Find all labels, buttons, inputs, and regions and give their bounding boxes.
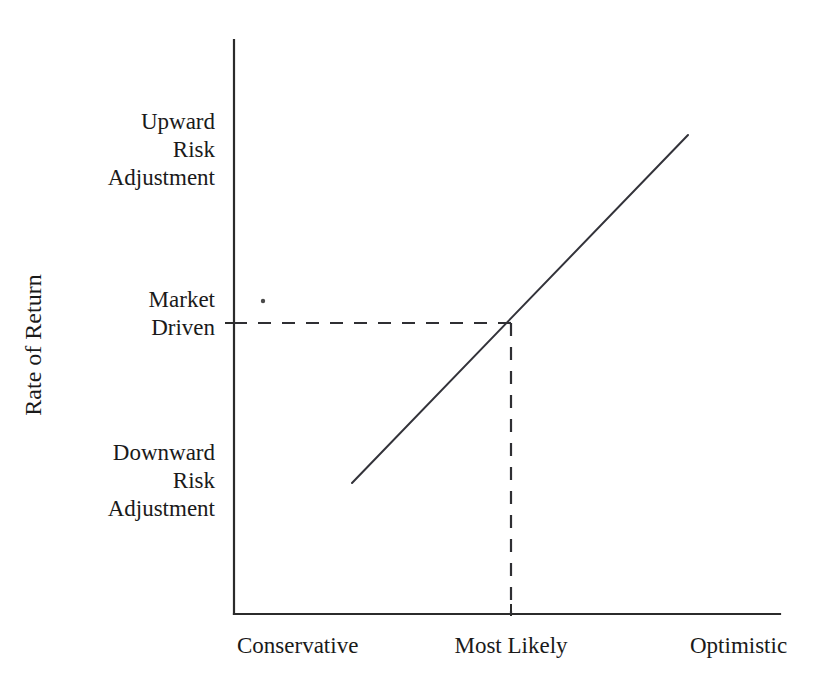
y-axis-label-market-driven: Market Driven	[149, 286, 215, 342]
y-axis-label-upward-line1: Upward	[108, 108, 215, 136]
rate-of-return-trend-line	[352, 135, 688, 483]
y-axis-label-upward-risk-adjustment: Upward Risk Adjustment	[108, 108, 215, 192]
y-axis-label-downward-line3: Adjustment	[108, 495, 215, 523]
y-axis-label-upward-line3: Adjustment	[108, 164, 215, 192]
y-axis-label-downward-line1: Downward	[108, 439, 215, 467]
chart-plot-area	[0, 0, 820, 692]
chart-figure: Rate of Return Upward Risk Adjustment Ma…	[0, 0, 820, 692]
x-axis-label-optimistic: Optimistic	[690, 632, 787, 660]
y-axis-label-downward-line2: Risk	[108, 467, 215, 495]
y-axis-title: Rate of Return	[13, 235, 53, 455]
y-axis-label-market-line2: Driven	[149, 314, 215, 342]
y-axis-label-market-line1: Market	[149, 286, 215, 314]
y-axis-label-downward-risk-adjustment: Downward Risk Adjustment	[108, 439, 215, 523]
scan-speck-artifact	[261, 299, 265, 303]
x-axis-label-most-likely: Most Likely	[454, 632, 567, 660]
x-axis-label-conservative: Conservative	[237, 632, 358, 660]
y-axis-label-upward-line2: Risk	[108, 136, 215, 164]
